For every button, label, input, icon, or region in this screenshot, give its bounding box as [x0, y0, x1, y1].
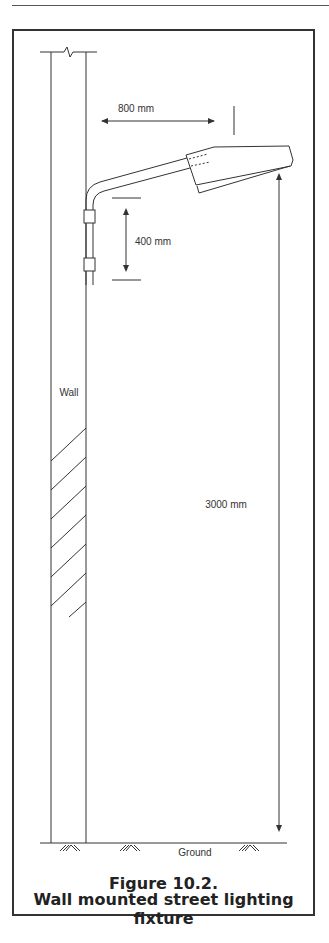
- fixture-arm: [84, 158, 190, 285]
- ground-hatch-3: [239, 845, 259, 851]
- arm-reach-label: 800 mm: [118, 103, 154, 114]
- ground-hatch-1: [60, 845, 80, 851]
- figure-caption-title: Wall mounted street lighting fixture: [12, 890, 315, 928]
- wall-label: Wall: [59, 387, 78, 398]
- mounting-height-label: 3000 mm: [205, 499, 247, 510]
- street-light-diagram: 800 mm 400 mm 3000 mm Wall Ground: [0, 0, 329, 943]
- wall-break-symbol: [40, 47, 97, 57]
- ground-line: [40, 843, 287, 851]
- lamp-head: [186, 146, 293, 193]
- wall: [51, 52, 86, 843]
- ground-hatch-2: [120, 845, 140, 851]
- dimension-arrowheads: [101, 118, 282, 832]
- bracket-spacing-label: 400 mm: [135, 236, 171, 247]
- ground-label: Ground: [178, 847, 211, 858]
